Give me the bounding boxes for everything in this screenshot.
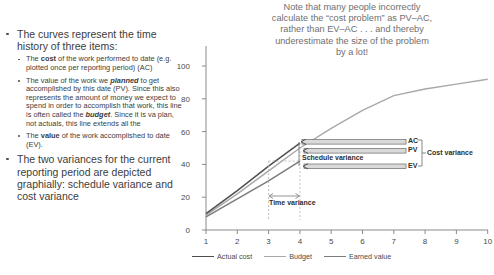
annotation-ev-label: EV — [408, 162, 417, 169]
slide-root: Note that many people incorrectly calcul… — [0, 0, 494, 275]
legend-item-earned-value: Earned value — [324, 252, 391, 261]
legend-label-actual-cost: Actual cost — [217, 252, 252, 261]
y-tick-label-60: 60 — [166, 127, 190, 136]
chart-legend: Actual cost Budget Earned value — [192, 252, 492, 261]
bullet-cost-ac: The cost of the work performed to date (… — [17, 55, 182, 72]
time-variance-arrow — [269, 194, 300, 199]
annotation-ac-label: AC — [408, 137, 418, 144]
legend-item-actual-cost: Actual cost — [192, 252, 252, 261]
annotation-cost-variance-label: Cost variance — [427, 149, 473, 156]
legend-swatch-budget-icon — [264, 256, 286, 257]
pv-variance-bar — [303, 148, 406, 153]
y-tick-label-0: 0 — [166, 226, 190, 235]
bullet-dot-icon — [18, 135, 20, 137]
y-tick-label-80: 80 — [166, 94, 190, 103]
note-line-1: Note that many people incorrectly — [214, 2, 490, 13]
bullet-value-bold: value — [41, 131, 60, 140]
y-tick-label-100: 100 — [166, 62, 190, 71]
note-line-2: calculate the “cost problem” as PV–AC, — [214, 13, 490, 24]
y-tick-label-40: 40 — [166, 160, 190, 169]
series-budget-line — [206, 79, 488, 215]
bullet-dot-icon — [6, 33, 9, 36]
x-tick-label-7: 7 — [387, 237, 401, 246]
bullet-planned-pv: The value of the work we planned to get … — [17, 77, 182, 129]
legend-swatch-earned-value-icon — [324, 256, 346, 257]
x-tick-label-8: 8 — [418, 237, 432, 246]
bullet-dot-icon — [6, 158, 9, 161]
x-tick-label-2: 2 — [230, 237, 244, 246]
x-tick-label-3: 3 — [262, 237, 276, 246]
bullet-text-column: The curves represent the time history of… — [4, 28, 182, 206]
legend-item-budget: Budget — [264, 252, 312, 261]
ac-variance-bar — [301, 139, 406, 144]
legend-label-earned-value: Earned value — [349, 252, 391, 261]
series-earned-value-line — [206, 161, 300, 217]
ev-variance-bar — [303, 164, 406, 169]
x-tick-marks — [206, 230, 488, 234]
annotation-time-variance-label: Time variance — [269, 199, 316, 206]
y-tick-marks — [202, 66, 206, 230]
bullet-list-level1: The curves represent the time history of… — [4, 28, 182, 202]
bullet-value-ev: The value of the work accomplished to da… — [17, 132, 182, 149]
bullet-dot-icon — [18, 59, 20, 61]
annotation-pv-label: PV — [408, 146, 417, 153]
bullet-two-variances-label: The two variances for the current report… — [17, 153, 173, 202]
note-line-3: rather than EV–AC . . . and thereby — [214, 24, 490, 35]
bullet-two-variances: The two variances for the current report… — [4, 153, 182, 202]
bullet-dot-icon — [18, 80, 20, 82]
bullet-list-level2: The cost of the work performed to date (… — [17, 55, 182, 149]
bullet-curves-represent: The curves represent the time history of… — [4, 28, 182, 149]
x-tick-label-5: 5 — [324, 237, 338, 246]
x-tick-label-6: 6 — [356, 237, 370, 246]
evm-chart: 0 20 40 60 80 100 1 2 3 4 5 6 7 8 9 10 A… — [170, 38, 492, 263]
x-tick-label-10: 10 — [481, 237, 494, 246]
legend-label-budget: Budget — [289, 252, 312, 261]
bullet-curves-label: The curves represent the time history of… — [17, 28, 156, 52]
y-tick-label-20: 20 — [166, 193, 190, 202]
x-tick-label-4: 4 — [293, 237, 307, 246]
x-tick-label-9: 9 — [449, 237, 463, 246]
cost-variance-bracket — [418, 140, 426, 166]
legend-swatch-actual-cost-icon — [192, 256, 214, 257]
x-tick-label-1: 1 — [199, 237, 213, 246]
annotation-schedule-variance-label: Schedule variance — [301, 154, 364, 161]
